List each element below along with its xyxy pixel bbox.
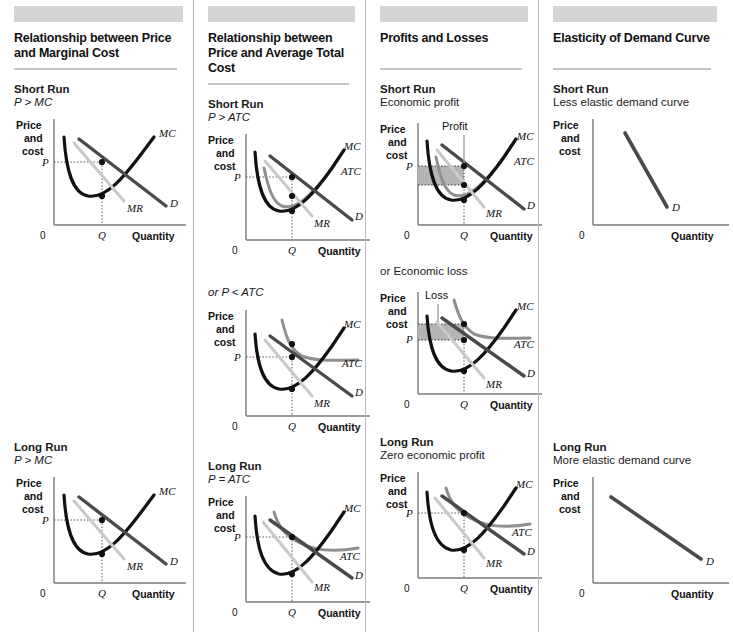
chart-svg: Price and cost 0 P Q Quantity bbox=[208, 304, 373, 436]
y-axis-label-line2: and bbox=[388, 136, 407, 148]
origin-label: 0 bbox=[579, 230, 585, 241]
quantity-tick-label: Q bbox=[460, 582, 468, 594]
section-alt-atc: or P < ATC bbox=[208, 286, 359, 299]
chart-svg: Price and cost 0 P Q Quantity bbox=[380, 466, 545, 598]
mr-label: MR bbox=[313, 217, 330, 229]
demand-curve bbox=[270, 336, 352, 396]
x-axis-label: Quantity bbox=[132, 230, 175, 242]
price-tick-label: P bbox=[405, 507, 413, 519]
price-marker bbox=[289, 174, 295, 180]
demand-curve bbox=[442, 318, 524, 376]
y-axis-label-line3: cost bbox=[386, 498, 408, 510]
chart-c2-short: Price and cost 0 P Q Quantity bbox=[208, 128, 359, 260]
x-axis-label: Quantity bbox=[490, 399, 533, 411]
section-subtitle: P > MC bbox=[14, 96, 187, 109]
chart-svg: Price and cost 0 Quantity D bbox=[553, 113, 733, 245]
y-axis-label-line1: Price bbox=[380, 292, 406, 304]
section-long-run: Long Run Zero economic profit bbox=[380, 436, 532, 462]
section-title: Long Run bbox=[14, 441, 187, 454]
chart-svg: Price and cost 0 P Q Quantity bbox=[208, 490, 373, 622]
mc-label: MC bbox=[516, 130, 534, 142]
y-axis-label-line1: Price bbox=[553, 477, 579, 489]
chart-c3-long: Price and cost 0 P Q Quantity bbox=[380, 466, 532, 598]
column-header-title: Relationship between Price and Marginal … bbox=[14, 31, 187, 61]
section-subtitle: or P < ATC bbox=[208, 286, 359, 299]
mc-label: MC bbox=[515, 478, 533, 490]
chart-c2-mid: Price and cost 0 P Q Quantity bbox=[208, 304, 359, 436]
y-axis-label-line1: Price bbox=[208, 496, 234, 508]
price-tick-label: P bbox=[233, 171, 241, 183]
price-marker bbox=[99, 159, 105, 165]
demand-label: D bbox=[526, 367, 535, 379]
chart-c2-long: Price and cost 0 P Q Quantity bbox=[208, 490, 359, 622]
tangency-marker bbox=[461, 510, 467, 516]
y-axis-label-line3: cost bbox=[559, 145, 581, 157]
demand-curve bbox=[625, 133, 667, 207]
y-axis-label-line2: and bbox=[561, 132, 580, 144]
mc-label: MC bbox=[158, 485, 176, 497]
chart-svg: Price and cost 0 P Q Quantity M bbox=[14, 113, 189, 245]
y-axis-label-line1: Price bbox=[16, 119, 42, 131]
mc-quantity-marker bbox=[289, 571, 295, 577]
demand-label: D bbox=[671, 201, 680, 213]
price-marker bbox=[99, 517, 105, 523]
quantity-tick-label: Q bbox=[288, 420, 296, 432]
column-header-title: Elasticity of Demand Curve bbox=[553, 31, 721, 46]
mr-label: MR bbox=[485, 207, 502, 219]
section-title: Long Run bbox=[553, 441, 721, 454]
demand-curve bbox=[611, 497, 701, 559]
mc-quantity-marker bbox=[461, 368, 467, 374]
section-title: Long Run bbox=[380, 436, 532, 449]
atc-label: ATC bbox=[513, 338, 534, 350]
section-short-run: Short Run P > ATC bbox=[208, 98, 359, 124]
origin-label: 0 bbox=[232, 421, 238, 432]
atc-label: ATC bbox=[340, 165, 361, 177]
chart-c4-short: Price and cost 0 Quantity D bbox=[553, 113, 721, 245]
y-axis-label-line1: Price bbox=[553, 119, 579, 131]
price-tick-label: P bbox=[233, 351, 241, 363]
price-tick-label: P bbox=[233, 531, 241, 543]
atc-label: ATC bbox=[341, 357, 362, 369]
section-short-run: Short Run P > MC bbox=[14, 83, 187, 109]
price-tick-label: P bbox=[405, 333, 413, 345]
column-price-marginal-cost: Relationship between Price and Marginal … bbox=[0, 0, 193, 632]
mc-label: MC bbox=[158, 127, 176, 139]
mc-quantity-marker bbox=[461, 197, 467, 203]
mr-label: MR bbox=[485, 378, 502, 390]
mc-quantity-marker bbox=[461, 547, 467, 553]
quantity-tick-label: Q bbox=[98, 229, 106, 241]
column-price-average-total-cost: Relationship between Price and Average T… bbox=[193, 0, 365, 632]
price-tick-label: P bbox=[41, 514, 49, 526]
header-rule bbox=[380, 68, 522, 70]
y-axis-label-line1: Price bbox=[208, 310, 234, 322]
mr-label: MR bbox=[313, 397, 330, 409]
origin-label: 0 bbox=[232, 607, 238, 618]
column-profits-losses: Profits and Losses Short Run Economic pr… bbox=[365, 0, 538, 632]
origin-label: 0 bbox=[232, 245, 238, 256]
quantity-tick-label: Q bbox=[460, 229, 468, 241]
section-title: Short Run bbox=[208, 98, 359, 111]
header-band bbox=[380, 6, 528, 22]
header-band bbox=[208, 6, 355, 22]
y-axis-label-line3: cost bbox=[386, 149, 408, 161]
quantity-tick-label: Q bbox=[98, 587, 106, 599]
y-axis-label-line2: and bbox=[216, 509, 235, 521]
x-axis-label: Quantity bbox=[671, 588, 714, 600]
loss-sub-text: or Economic loss bbox=[380, 265, 468, 277]
atc-marker bbox=[289, 341, 295, 347]
price-marker bbox=[461, 163, 467, 169]
chart-svg: Price and cost 0 P Q Quantity bbox=[208, 128, 373, 260]
y-axis-label-line2: and bbox=[561, 490, 580, 502]
demand-label: D bbox=[526, 199, 535, 211]
y-axis-label-line1: Price bbox=[380, 472, 406, 484]
quantity-tick-label: Q bbox=[288, 606, 296, 618]
section-short-run: Short Run Less elastic demand curve bbox=[553, 83, 721, 109]
mr-label: MR bbox=[126, 202, 143, 214]
chart-c3-mid: Price and cost 0 P Q Quantity bbox=[380, 282, 532, 414]
section-subtitle: P > ATC bbox=[208, 111, 359, 124]
column-header-title: Relationship between Price and Average T… bbox=[208, 31, 359, 76]
section-short-run: Short Run Economic profit bbox=[380, 83, 532, 109]
chart-svg: Price and cost 0 Quantity D bbox=[553, 471, 733, 603]
origin-label: 0 bbox=[404, 583, 410, 594]
